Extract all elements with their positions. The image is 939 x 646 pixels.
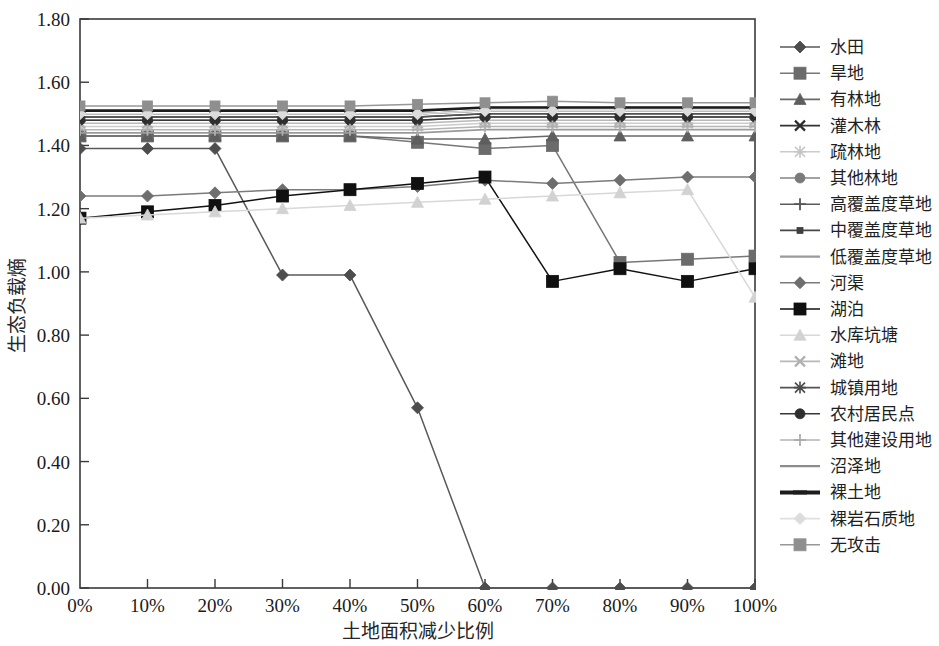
legend-label: 有林地: [830, 89, 881, 109]
legend-item-13[interactable]: 城镇用地: [780, 378, 898, 398]
data-point-marker-diamond: [682, 171, 694, 183]
data-point-marker-star: [794, 146, 806, 158]
data-point-marker-square: [75, 101, 85, 111]
legend-item-12[interactable]: 滩地: [780, 351, 864, 371]
y-tick-label: 0.80: [37, 325, 70, 346]
legend-label: 河渠: [830, 273, 864, 293]
legend-label: 其他建设用地: [830, 430, 932, 450]
data-point-marker-square: [480, 98, 490, 108]
legend-item-11[interactable]: 水库坑塘: [780, 325, 898, 345]
legend-label: 高覆盖度草地: [830, 194, 932, 214]
data-point-marker-diamond: [794, 277, 806, 289]
data-point-marker-plus: [614, 120, 626, 132]
legend-label: 水库坑塘: [830, 325, 898, 345]
legend-item-3[interactable]: 灌木林: [780, 116, 881, 136]
data-point-marker-square: [749, 263, 761, 275]
y-tick-label: 0.40: [37, 452, 70, 473]
series-10: [74, 171, 761, 287]
series-plot-group: [74, 96, 761, 594]
data-point-marker-square: [794, 67, 806, 79]
data-point-marker-diamond: [614, 582, 626, 594]
data-point-marker-square: [412, 177, 424, 189]
x-tick-label: 40%: [333, 595, 368, 616]
legend-label: 其他林地: [830, 168, 898, 188]
y-tick-label: 0.20: [37, 515, 70, 536]
x-tick-label: 70%: [535, 595, 570, 616]
data-point-marker-diamond: [794, 41, 806, 53]
data-point-marker-square: [794, 539, 806, 551]
y-tick-label: 0.00: [37, 578, 70, 599]
data-point-marker-square: [277, 190, 289, 202]
legend-label: 湖泊: [830, 299, 864, 319]
data-point-marker-thickline: [793, 490, 807, 494]
legend-label: 低覆盖度草地: [830, 247, 932, 267]
legend-label: 中覆盖度草地: [830, 220, 932, 240]
legend-item-16[interactable]: 沼泽地: [780, 456, 881, 476]
legend-label: 无攻击: [830, 535, 881, 555]
y-tick-label: 1.20: [37, 199, 70, 220]
legend-label: 农村居民点: [830, 404, 915, 424]
data-point-marker-star: [794, 382, 806, 394]
x-tick-label: 80%: [603, 595, 638, 616]
y-axis-title: 生态负载熵: [6, 258, 28, 353]
data-point-marker-diamond: [74, 190, 86, 202]
y-tick-label: 1.60: [37, 72, 70, 93]
data-point-marker-diamond: [142, 143, 154, 155]
y-tick-label: 1.00: [37, 262, 70, 283]
data-point-marker-diamond: [547, 582, 559, 594]
legend-item-5[interactable]: 其他林地: [780, 168, 898, 188]
data-point-marker-square: [210, 101, 220, 111]
x-tick-label: 30%: [265, 595, 300, 616]
data-point-marker-diamond: [794, 513, 806, 525]
legend-item-2[interactable]: 有林地: [780, 89, 881, 109]
series-0: [74, 143, 761, 594]
data-point-marker-diamond: [74, 143, 86, 155]
legend-item-18[interactable]: 裸岩石质地: [780, 509, 915, 529]
series-11: [74, 184, 761, 302]
data-point-marker-plus: [412, 124, 424, 136]
series-line: [80, 149, 755, 588]
data-point-marker-plus: [749, 120, 761, 132]
legend-item-6[interactable]: 高覆盖度草地: [780, 194, 932, 214]
data-point-marker-square: [143, 101, 153, 111]
x-axis-title: 土地面积减少比例: [342, 620, 494, 642]
data-point-marker-diamond: [209, 187, 221, 199]
data-point-marker-square: [345, 101, 355, 111]
legend-item-0[interactable]: 水田: [780, 37, 864, 57]
data-point-marker-diamond: [344, 269, 356, 281]
legend-label: 灌木林: [830, 116, 881, 136]
legend-label: 旱地: [830, 63, 864, 83]
data-point-marker-smallsquare: [797, 227, 803, 233]
data-point-marker-plus: [794, 434, 806, 446]
x-tick-label: 60%: [468, 595, 503, 616]
data-point-marker-square: [682, 275, 694, 287]
legend-item-15[interactable]: 其他建设用地: [780, 430, 932, 450]
legend-item-4[interactable]: 疏林地: [780, 142, 881, 162]
data-point-marker-diamond: [749, 582, 761, 594]
data-point-marker-square: [479, 171, 491, 183]
chart-figure: 0.000.200.400.600.801.001.201.401.601.80…: [0, 0, 939, 646]
data-point-marker-plus: [547, 120, 559, 132]
legend-item-14[interactable]: 农村居民点: [780, 404, 915, 424]
data-point-marker-diamond: [209, 143, 221, 155]
legend-item-7[interactable]: 中覆盖度草地: [780, 220, 932, 240]
legend-label: 疏林地: [830, 142, 881, 162]
ecological-load-entropy-line-chart: 0.000.200.400.600.801.001.201.401.601.80…: [0, 0, 939, 646]
legend-item-8[interactable]: 低覆盖度草地: [780, 247, 932, 267]
x-tick-label: 90%: [670, 595, 705, 616]
y-axis-tick-labels: 0.000.200.400.600.801.001.201.401.601.80: [37, 9, 70, 599]
data-point-marker-plus: [794, 198, 806, 210]
data-point-marker-square: [683, 98, 693, 108]
data-point-marker-diamond: [547, 177, 559, 189]
legend-item-17[interactable]: 裸土地: [780, 482, 881, 502]
x-axis-tick-labels: 0%10%20%30%40%50%60%70%80%90%100%: [67, 595, 777, 616]
legend-item-9[interactable]: 河渠: [780, 273, 864, 293]
legend-label: 水田: [830, 37, 864, 57]
data-point-marker-diamond: [412, 402, 424, 414]
legend-item-19[interactable]: 无攻击: [780, 535, 881, 555]
legend-item-10[interactable]: 湖泊: [780, 299, 864, 319]
y-tick-label: 1.80: [37, 9, 70, 30]
legend-item-1[interactable]: 旱地: [780, 63, 864, 83]
x-axis-tick-marks: [148, 579, 756, 588]
data-point-marker-square: [615, 98, 625, 108]
